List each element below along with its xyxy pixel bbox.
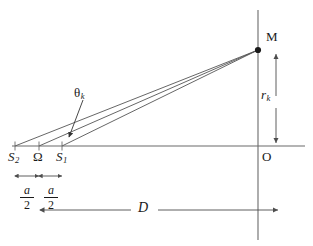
label-half-separation-right: a 2 [44, 184, 58, 212]
theta-pointer-arrow [69, 100, 83, 137]
label-angle-theta-k: θk [74, 86, 85, 101]
label-origin-O: O [262, 150, 271, 163]
point-M-dot [255, 47, 261, 53]
label-source-s2: S2 [8, 150, 19, 165]
label-half-separation-left: a 2 [20, 184, 34, 212]
optics-diagram-figure: S2 Ω S1 O M θk rk D a 2 a 2 [0, 0, 313, 246]
ray-from-s2 [15, 50, 258, 146]
label-distance-rk: rk [261, 88, 270, 103]
label-point-omega: Ω [33, 150, 43, 163]
ray-from-omega [39, 50, 258, 146]
ray-from-s1 [62, 50, 258, 146]
label-distance-D: D [138, 201, 148, 215]
label-point-M: M [266, 30, 278, 43]
label-source-s1: S1 [56, 150, 67, 165]
